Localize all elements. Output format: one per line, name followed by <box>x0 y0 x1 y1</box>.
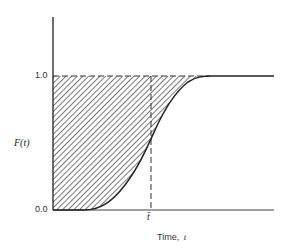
x-axis-label-text: Time, <box>157 232 179 242</box>
y-tick-0: 0.0 <box>35 204 48 214</box>
y-tick-1: 1.0 <box>35 70 48 80</box>
y-axis-label: F(t) <box>14 137 30 148</box>
cdf-chart <box>0 0 286 252</box>
x-axis-label: Time, t <box>157 232 186 242</box>
x-axis-label-var: t <box>184 232 187 242</box>
x-tick-tbar: t̄ <box>147 211 150 222</box>
hatched-area <box>53 76 213 210</box>
